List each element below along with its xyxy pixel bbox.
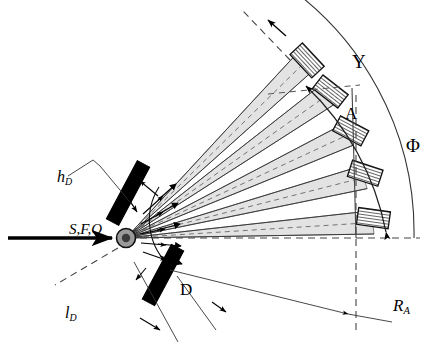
beam-1-back-arrow	[140, 181, 158, 196]
radius-label: RA	[393, 297, 410, 316]
radius-dimension	[170, 270, 392, 322]
beam-fan-group	[126, 55, 374, 238]
source-label: S,F,O	[69, 222, 102, 237]
detector-5	[356, 207, 390, 228]
distance-label: D	[180, 281, 192, 298]
h-label: hD	[57, 169, 72, 187]
collimator-upper-bar	[106, 161, 149, 226]
source-point	[117, 229, 136, 248]
beam-1-axis-dashed	[243, 11, 290, 60]
phi-label: Φ	[406, 136, 420, 155]
upsilon-label: Υ	[352, 52, 366, 71]
diagram-canvas: S,F,O hD lD D A RA Υ Φ	[0, 0, 440, 356]
l-label: lD	[65, 305, 77, 323]
upsilon-arrow	[268, 20, 286, 36]
detector-label: A	[345, 105, 357, 122]
collimator-axis-dashed-lower	[55, 248, 118, 285]
